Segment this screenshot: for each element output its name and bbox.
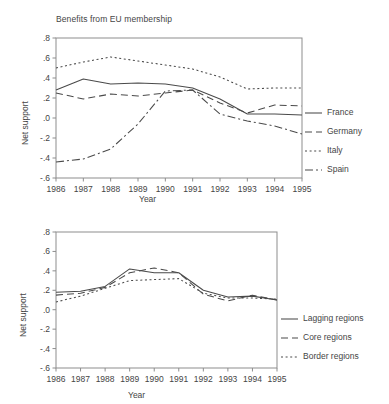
y-tick-label: -.2	[40, 133, 50, 143]
legend-label-france: France	[327, 107, 353, 117]
legend-label-core-regions: Core regions	[303, 332, 352, 342]
x-tick-label: 1992	[194, 374, 213, 384]
x-tick-label: 1989	[129, 184, 148, 194]
legend-line-sample	[305, 149, 322, 153]
x-tick-label: 1993	[238, 184, 257, 194]
x-tick-label: 1990	[156, 184, 175, 194]
x-tick-label: 1995	[293, 184, 312, 194]
y-tick-label: -.6	[40, 363, 50, 373]
y-tick-label: .8	[43, 227, 50, 237]
plot-frame	[56, 232, 277, 368]
y-tick-label: -.6	[40, 173, 50, 183]
x-tick-label: 1994	[243, 374, 262, 384]
x-tick-label: 1992	[211, 184, 230, 194]
plot-frame	[56, 38, 302, 178]
y-tick-label: .8	[43, 33, 50, 43]
x-tick-label: 1993	[218, 374, 237, 384]
legend-line-sample	[305, 111, 322, 115]
legend-label-germany: Germany	[327, 126, 362, 136]
x-tick-label: 1994	[265, 184, 284, 194]
figure-two-panel-line-charts: Benefits from EU membership Net support …	[0, 0, 389, 404]
series-line	[56, 90, 302, 113]
y-tick-label: .0	[43, 305, 50, 315]
y-tick-label: .6	[43, 246, 50, 256]
y-tick-label: .6	[43, 53, 50, 63]
y-tick-label: .2	[43, 285, 50, 295]
legend-line-sample	[305, 168, 322, 172]
legend-line-sample	[281, 317, 298, 321]
legend-line-sample	[281, 355, 298, 359]
x-tick-label: 1988	[101, 184, 120, 194]
x-tick-label: 1989	[120, 374, 139, 384]
x-tick-label: 1990	[145, 374, 164, 384]
x-tick-label: 1987	[71, 374, 90, 384]
y-tick-label: .4	[43, 266, 50, 276]
x-tick-label: 1987	[74, 184, 93, 194]
x-tick-label: 1986	[47, 184, 66, 194]
legend-label-lagging-regions: Lagging regions	[303, 313, 364, 323]
x-tick-label: 1991	[169, 374, 188, 384]
y-tick-label: -.4	[40, 153, 50, 163]
x-tick-label: 1995	[268, 374, 287, 384]
x-tick-label: 1988	[96, 374, 115, 384]
y-tick-label: .4	[43, 73, 50, 83]
x-tick-label: 1986	[47, 374, 66, 384]
chart-panel-top: Benefits from EU membership Net support …	[0, 0, 389, 205]
y-tick-label: .0	[43, 113, 50, 123]
series-line	[56, 269, 277, 300]
legend-label-border-regions: Border regions	[303, 351, 359, 361]
y-tick-label: .2	[43, 93, 50, 103]
series-line	[56, 57, 302, 89]
legend-label-spain: Spain	[327, 164, 349, 174]
plot-area-bottom: .8.6.4.2.0-.2-.4-.6198619871988198919901…	[0, 205, 389, 404]
series-line	[56, 90, 302, 162]
legend-line-sample	[281, 336, 298, 340]
y-tick-label: -.2	[40, 324, 50, 334]
legend-line-sample	[305, 130, 322, 134]
legend-label-italy: Italy	[327, 145, 343, 155]
x-tick-label: 1991	[183, 184, 202, 194]
chart-panel-bottom: Net support Year .8.6.4.2.0-.2-.4-.61986…	[0, 205, 389, 404]
plot-area-top: .8.6.4.2.0-.2-.4-.6198619871988198919901…	[0, 0, 389, 205]
series-line	[56, 279, 277, 302]
y-tick-label: -.4	[40, 344, 50, 354]
